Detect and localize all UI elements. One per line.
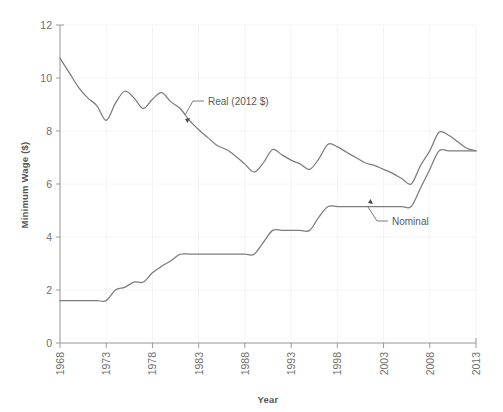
- annotation-label-nominal: Nominal: [392, 216, 429, 227]
- x-tick-label-2013: 2013: [470, 352, 482, 376]
- y-axis-title: Minimum Wage ($): [19, 142, 30, 229]
- y-tick-label-0: 0: [46, 337, 52, 349]
- x-tick-label-1988: 1988: [239, 352, 251, 376]
- x-axis-tick-labels: 1968197319781983198819931998200320082013: [54, 352, 482, 376]
- x-tick-label-1993: 1993: [285, 352, 297, 376]
- annotation-leader-real-2012: [185, 101, 193, 115]
- annotation-label-real-2012: Real (2012 $): [208, 96, 269, 107]
- annotation-arrow-nominal: [368, 199, 373, 204]
- tick-marks: [56, 25, 476, 348]
- x-tick-label-2003: 2003: [378, 352, 390, 376]
- y-tick-label-10: 10: [40, 72, 52, 84]
- x-tick-label-1978: 1978: [146, 352, 158, 376]
- chart-canvas: 024681012 196819731978198319881993199820…: [0, 0, 503, 412]
- x-tick-label-2008: 2008: [424, 352, 436, 376]
- y-tick-label-12: 12: [40, 19, 52, 31]
- x-tick-label-1973: 1973: [100, 352, 112, 376]
- series-line-real-2012: [60, 58, 476, 184]
- gridlines: [60, 25, 476, 343]
- y-axis-tick-labels: 024681012: [40, 19, 52, 349]
- minimum-wage-line-chart: 024681012 196819731978198319881993199820…: [0, 0, 503, 412]
- y-tick-label-4: 4: [46, 231, 52, 243]
- x-tick-label-1968: 1968: [54, 352, 66, 376]
- x-tick-label-1983: 1983: [193, 352, 205, 376]
- series-annotations: Real (2012 $)Nominal: [185, 96, 429, 227]
- x-axis-title: Year: [258, 394, 279, 405]
- y-tick-label-8: 8: [46, 125, 52, 137]
- y-tick-label-2: 2: [46, 284, 52, 296]
- data-series: [60, 58, 476, 301]
- annotation-leader-nominal: [368, 207, 377, 221]
- y-tick-label-6: 6: [46, 178, 52, 190]
- x-tick-label-1998: 1998: [331, 352, 343, 376]
